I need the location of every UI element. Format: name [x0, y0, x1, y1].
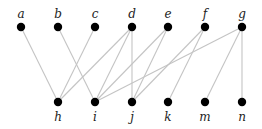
node-label-c: c — [92, 7, 99, 21]
node-c — [91, 23, 99, 31]
node-g — [238, 23, 246, 31]
node-label-m: m — [199, 110, 210, 124]
edge-d-i — [95, 27, 132, 102]
node-label-g: g — [238, 7, 246, 21]
node-label-h: h — [54, 110, 62, 124]
node-i — [91, 98, 99, 106]
node-k — [164, 98, 172, 106]
edge-g-m — [205, 27, 242, 102]
node-label-a: a — [17, 7, 24, 21]
edge-f-k — [168, 27, 205, 102]
node-label-j: j — [127, 110, 134, 124]
node-f — [201, 23, 209, 31]
node-m — [201, 98, 209, 106]
node-label-k: k — [164, 110, 171, 124]
node-b — [54, 23, 62, 31]
node-label-e: e — [164, 7, 171, 21]
node-label-f: f — [202, 7, 210, 21]
edges-layer — [21, 27, 242, 102]
node-label-i: i — [93, 110, 97, 124]
edge-g-i — [95, 27, 242, 102]
node-label-b: b — [54, 7, 62, 21]
bipartite-graph: abcdefghijkmn — [0, 0, 262, 129]
edge-e-j — [132, 27, 168, 102]
node-h — [54, 98, 62, 106]
node-label-n: n — [238, 110, 246, 124]
node-n — [238, 98, 246, 106]
edge-a-h — [21, 27, 58, 102]
node-e — [164, 23, 172, 31]
node-label-d: d — [128, 7, 136, 21]
edge-d-h — [58, 27, 132, 102]
node-a — [17, 23, 25, 31]
node-d — [128, 23, 136, 31]
node-j — [128, 98, 136, 106]
